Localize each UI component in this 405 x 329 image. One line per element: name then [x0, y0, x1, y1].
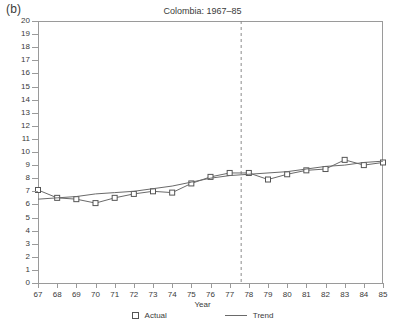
y-axis-tick — [32, 191, 38, 192]
chart-legend: Actual Trend — [0, 311, 405, 320]
x-axis-tick — [153, 283, 154, 288]
data-point-marker — [227, 170, 232, 175]
data-point-marker — [112, 195, 117, 200]
y-axis-tick — [32, 113, 38, 114]
x-axis-tick — [345, 283, 346, 288]
legend-label-trend: Trend — [253, 311, 274, 320]
y-axis-tick — [32, 165, 38, 166]
plot-area — [38, 21, 383, 283]
series-line-trend — [38, 161, 383, 199]
legend-line-marker-icon — [225, 315, 247, 316]
y-axis-tick — [32, 178, 38, 179]
data-point-marker — [285, 172, 290, 177]
x-axis-tick — [326, 283, 327, 288]
y-axis-tick — [32, 34, 38, 35]
data-point-marker — [151, 189, 156, 194]
legend-entry-trend: Trend — [225, 311, 274, 320]
y-axis-tick-label: 17 — [2, 55, 30, 64]
y-axis-tick — [32, 257, 38, 258]
x-axis-tick — [38, 283, 39, 288]
y-axis-tick-label: 1 — [2, 265, 30, 274]
y-axis-tick — [32, 126, 38, 127]
y-axis-tick-label: 4 — [2, 226, 30, 235]
y-axis-tick-label: 7 — [2, 186, 30, 195]
y-axis-tick — [32, 139, 38, 140]
y-axis-tick — [32, 100, 38, 101]
data-point-marker — [266, 177, 271, 182]
y-axis-tick-label: 11 — [2, 134, 30, 143]
y-axis-tick — [32, 218, 38, 219]
y-axis-tick — [32, 270, 38, 271]
x-axis-tick — [383, 283, 384, 288]
y-axis-tick — [32, 152, 38, 153]
y-axis-tick-label: 5 — [2, 213, 30, 222]
y-axis-tick-label: 18 — [2, 42, 30, 51]
y-axis-tick — [32, 60, 38, 61]
x-axis-tick — [211, 283, 212, 288]
x-axis-tick — [306, 283, 307, 288]
x-axis-tick-label: 85 — [371, 290, 395, 299]
x-axis-tick — [57, 283, 58, 288]
x-axis-tick — [191, 283, 192, 288]
data-point-marker — [170, 190, 175, 195]
y-axis-tick-label: 9 — [2, 160, 30, 169]
data-point-marker — [131, 191, 136, 196]
y-axis-tick-label: 15 — [2, 82, 30, 91]
y-axis-tick-label: 12 — [2, 121, 30, 130]
y-axis-tick-label: 20 — [2, 16, 30, 25]
data-point-marker — [74, 197, 79, 202]
y-axis-tick-label: 2 — [2, 252, 30, 261]
x-axis-tick — [268, 283, 269, 288]
data-point-marker — [93, 201, 98, 206]
y-axis-tick-label: 3 — [2, 239, 30, 248]
data-point-marker — [342, 157, 347, 162]
y-axis-tick — [32, 231, 38, 232]
y-axis-tick-label: 14 — [2, 95, 30, 104]
y-axis-tick — [32, 204, 38, 205]
legend-square-marker-icon — [132, 312, 139, 319]
x-axis-tick — [76, 283, 77, 288]
chart-title: Colombia: 1967–85 — [0, 6, 405, 16]
y-axis-tick — [32, 87, 38, 88]
legend-entry-actual: Actual — [132, 311, 167, 320]
y-axis-tick-label: 19 — [2, 29, 30, 38]
y-axis-tick — [32, 47, 38, 48]
y-axis-tick-label: 10 — [2, 147, 30, 156]
data-point-marker — [381, 160, 386, 165]
x-axis-tick — [364, 283, 365, 288]
y-axis-tick — [32, 244, 38, 245]
x-axis-tick — [249, 283, 250, 288]
x-axis-tick — [287, 283, 288, 288]
data-point-marker — [323, 167, 328, 172]
x-axis-tick — [115, 283, 116, 288]
y-axis-tick-label: 13 — [2, 108, 30, 117]
x-axis-tick — [172, 283, 173, 288]
y-axis-tick-label: 0 — [2, 278, 30, 287]
x-axis-tick — [134, 283, 135, 288]
y-axis-tick-label: 8 — [2, 173, 30, 182]
legend-label-actual: Actual — [145, 311, 167, 320]
x-axis-tick — [96, 283, 97, 288]
y-axis-tick — [32, 21, 38, 22]
y-axis-tick-label: 6 — [2, 199, 30, 208]
chart-series-layer — [38, 21, 383, 283]
x-axis-tick — [230, 283, 231, 288]
x-axis-title: Year — [0, 300, 405, 309]
y-axis-tick — [32, 73, 38, 74]
data-point-marker — [361, 163, 366, 168]
y-axis-tick-label: 16 — [2, 68, 30, 77]
